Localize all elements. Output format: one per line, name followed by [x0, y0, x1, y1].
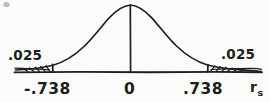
right-tail-probability-label: .025 [221, 46, 255, 62]
center-zero-label: 0 [124, 80, 135, 98]
figure-canvas: .025 .025 -.738 0 .738 r s [0, 0, 270, 102]
scan-speck-mark [3, 2, 9, 7]
normal-curve-figure: .025 .025 -.738 0 .738 r s [0, 0, 270, 102]
left-critical-value-label: -.738 [24, 80, 71, 98]
left-tail-probability-label: .025 [8, 47, 42, 63]
axis-variable-label: r [250, 79, 257, 95]
right-critical-value-label: .738 [183, 80, 223, 98]
axis-variable-subscript: s [258, 87, 264, 98]
x-axis-line [15, 72, 263, 73]
